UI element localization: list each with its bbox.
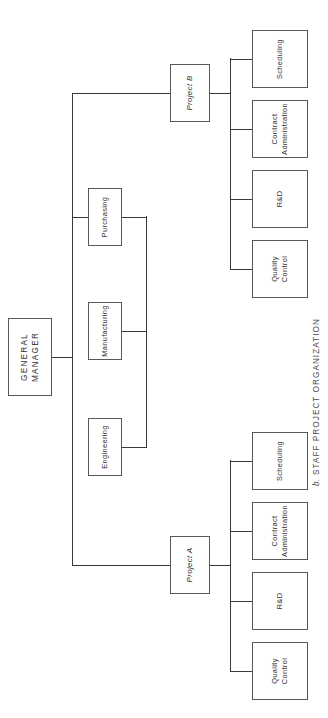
node-b-quality-control[interactable]: Quality Control [252,240,308,298]
a-rnd-line1: R&D [275,591,285,612]
connector-engineering-riser [122,447,147,448]
b-scheduling-line1: Scheduling [275,37,285,81]
figure-caption-lead: b. [312,478,321,486]
connector-project-a-stem [210,565,230,566]
connector-functions-bus [146,216,147,448]
connector-b-quality-control-drop [230,269,252,270]
connector-root-stem [52,357,72,358]
node-a-quality-control[interactable]: Quality Control [252,642,308,700]
node-project-a[interactable]: Project A [170,536,210,594]
general-manager-line1: GENERAL [19,331,30,383]
connector-manufacturing-riser [122,331,147,332]
node-project-b[interactable]: Project B [170,64,210,122]
connector-a-quality-control-drop [230,671,252,672]
connector-b-contract-drop [230,129,252,130]
a-scheduling-line1: Scheduling [275,439,285,483]
b-quality-control-line2: Control [280,254,290,284]
org-chart: GENERAL MANAGER Project A Quality Contro… [0,0,328,718]
connector-a-scheduling-drop [230,461,252,462]
general-manager-line2: MANAGER [30,330,41,384]
connector-purchasing-riser [122,217,147,218]
node-b-rnd[interactable]: R&D [252,170,308,228]
connector-project-b-stem [210,93,230,94]
node-a-scheduling[interactable]: Scheduling [252,432,308,490]
manufacturing-label: Manufacturing [100,303,110,358]
a-contract-line2: Administration [280,503,290,559]
figure-caption-text: STAFF PROJECT ORGANIZATION [312,318,321,475]
node-manufacturing[interactable]: Manufacturing [88,302,122,360]
rotated-canvas: GENERAL MANAGER Project A Quality Contro… [0,0,328,718]
node-a-rnd[interactable]: R&D [252,572,308,630]
figure-caption: b. STAFF PROJECT ORGANIZATION [312,318,321,486]
node-b-scheduling[interactable]: Scheduling [252,30,308,88]
node-a-contract-administration[interactable]: Contract Administration [252,502,308,560]
a-contract-line1: Contract [270,514,280,549]
connector-project-a-bus [230,460,231,672]
node-engineering[interactable]: Engineering [88,418,122,476]
connector-a-contract-drop [230,531,252,532]
node-purchasing[interactable]: Purchasing [88,188,122,246]
b-quality-control-line1: Quality [270,254,280,283]
connector-main-spine [72,94,73,566]
connector-project-b-riser [72,93,170,94]
engineering-label: Engineering [100,423,110,470]
b-rnd-line1: R&D [275,189,285,210]
connector-project-b-bus [230,58,231,270]
node-b-contract-administration[interactable]: Contract Administration [252,100,308,158]
purchasing-label: Purchasing [100,195,110,239]
b-contract-line2: Administration [280,101,290,157]
connector-project-a-riser [72,565,170,566]
node-general-manager[interactable]: GENERAL MANAGER [8,318,52,396]
connector-a-rnd-drop [230,601,252,602]
connector-b-rnd-drop [230,199,252,200]
project-b-label: Project B [185,73,196,112]
b-contract-line1: Contract [270,112,280,147]
project-a-label: Project A [185,546,196,585]
a-quality-control-line1: Quality [270,656,280,685]
connector-b-scheduling-drop [230,59,252,60]
a-quality-control-line2: Control [280,656,290,686]
